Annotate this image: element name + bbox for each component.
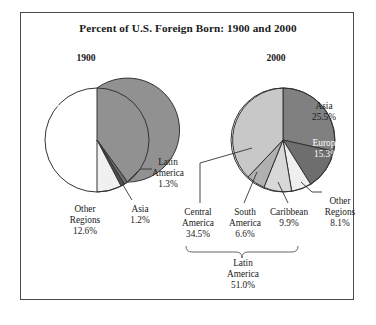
label-asia-1900: Asia 1.2% bbox=[118, 204, 162, 226]
label-other-regions-2000-value: 8.1% bbox=[330, 218, 349, 228]
label-south-america-2000-name-line1: South bbox=[234, 207, 256, 217]
leader-line-1900-asia bbox=[123, 185, 132, 200]
label-central-america-2000-value: 34.5% bbox=[186, 229, 210, 239]
label-south-america-2000-value: 6.6% bbox=[235, 229, 254, 239]
label-latin-america-1900-name-line2: America bbox=[152, 168, 184, 178]
label-latin-america-1900-value: 1.3% bbox=[158, 179, 177, 189]
label-latin-america-1900-name-line1: Latin bbox=[158, 157, 178, 167]
label-asia-1900-value: 1.2% bbox=[130, 215, 149, 225]
label-latin-america-2000-value: 51.0% bbox=[231, 280, 255, 290]
label-europe-2000-value: 15.3% bbox=[314, 149, 338, 159]
label-asia-2000-value: 25.5% bbox=[312, 112, 336, 122]
label-asia-2000-name: Asia bbox=[315, 101, 332, 111]
label-latin-america-1900: Latin America 1.3% bbox=[140, 157, 196, 191]
latin-america-brace bbox=[186, 246, 298, 258]
label-other-regions-1900: Other Regions 12.6% bbox=[56, 204, 114, 238]
label-asia-2000: Asia 25.5% bbox=[300, 101, 348, 123]
label-europe-1900-value: 84.9% bbox=[58, 115, 82, 125]
label-europe-2000: Europe 15.3% bbox=[300, 138, 352, 160]
label-caribbean-2000-value: 9.9% bbox=[279, 218, 298, 228]
label-latin-america-2000-total: Latin America 51.0% bbox=[212, 258, 274, 292]
label-latin-america-2000-name-line2: America bbox=[227, 269, 259, 279]
label-central-america-2000-name-line2: America bbox=[182, 218, 214, 228]
label-central-america-2000: Central America 34.5% bbox=[172, 207, 224, 241]
label-latin-america-2000-name-line1: Latin bbox=[233, 258, 253, 268]
label-europe-1900: Europe 84.9% bbox=[38, 104, 102, 126]
label-other-regions-1900-name-line2: Regions bbox=[70, 215, 100, 225]
label-other-regions-1900-name-line1: Other bbox=[74, 204, 95, 214]
label-central-america-2000-name-line1: Central bbox=[184, 207, 211, 217]
label-europe-1900-name: Europe bbox=[57, 104, 84, 114]
figure-container: Percent of U.S. Foreign Born: 1900 and 2… bbox=[0, 0, 376, 325]
label-other-regions-2000-name-line1: Other bbox=[329, 196, 350, 206]
label-caribbean-2000: Caribbean 9.9% bbox=[262, 207, 316, 229]
label-other-regions-2000: Other Regions 8.1% bbox=[314, 196, 366, 230]
label-other-regions-2000-name-line2: Regions bbox=[325, 207, 355, 217]
label-south-america-2000-name-line2: America bbox=[229, 218, 261, 228]
label-other-regions-1900-value: 12.6% bbox=[73, 226, 97, 236]
label-asia-1900-name: Asia bbox=[131, 204, 148, 214]
label-caribbean-2000-name: Caribbean bbox=[270, 207, 308, 217]
label-europe-2000-name: Europe bbox=[313, 138, 340, 148]
